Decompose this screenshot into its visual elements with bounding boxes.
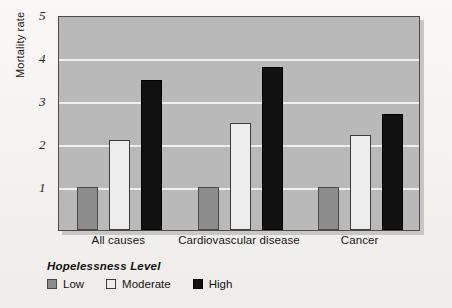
bar-high-cancer: [382, 114, 403, 230]
legend-item-moderate[interactable]: Moderate: [106, 278, 171, 290]
y-tick-label-5: 5: [39, 8, 46, 24]
bar-moderate-cancer: [350, 135, 371, 230]
legend: Hopelessness Level LowModerateHigh: [47, 260, 377, 290]
legend-title: Hopelessness Level: [47, 260, 377, 272]
legend-items: LowModerateHigh: [47, 278, 377, 290]
legend-swatch-low-icon: [47, 279, 57, 289]
bar-high-cardiovascular-disease: [262, 67, 283, 230]
y-tick-label-2: 2: [39, 137, 46, 153]
legend-label-low: Low: [63, 278, 84, 290]
bar-low-cardiovascular-disease: [198, 187, 219, 230]
legend-swatch-moderate-icon: [106, 279, 116, 289]
x-axis-label-cardiovascular-disease: Cardiovascular disease: [178, 234, 300, 246]
plot-area: [58, 16, 420, 231]
legend-swatch-high-icon: [193, 279, 203, 289]
y-tick-label-3: 3: [39, 94, 46, 110]
legend-item-low[interactable]: Low: [47, 278, 84, 290]
x-axis-label-cancer: Cancer: [341, 234, 379, 246]
bar-series-container: [59, 17, 419, 230]
legend-label-high: High: [209, 278, 233, 290]
y-tick-label-1: 1: [39, 180, 46, 196]
x-axis-labels: All causesCardiovascular diseaseCancer: [58, 234, 420, 252]
legend-item-high[interactable]: High: [193, 278, 233, 290]
bar-high-all-causes: [141, 80, 162, 231]
legend-label-moderate: Moderate: [122, 278, 171, 290]
bar-moderate-cardiovascular-disease: [230, 123, 251, 231]
chart-page: Mortality rate 12345 All causesCardiovas…: [0, 0, 452, 308]
bar-low-all-causes: [77, 187, 98, 230]
bar-low-cancer: [318, 187, 339, 230]
plot-area-wrapper: [58, 16, 420, 231]
y-tick-label-4: 4: [39, 51, 46, 67]
bar-moderate-all-causes: [109, 140, 130, 230]
x-axis-label-all-causes: All causes: [92, 234, 145, 246]
y-axis-ticks: 12345: [0, 16, 56, 231]
